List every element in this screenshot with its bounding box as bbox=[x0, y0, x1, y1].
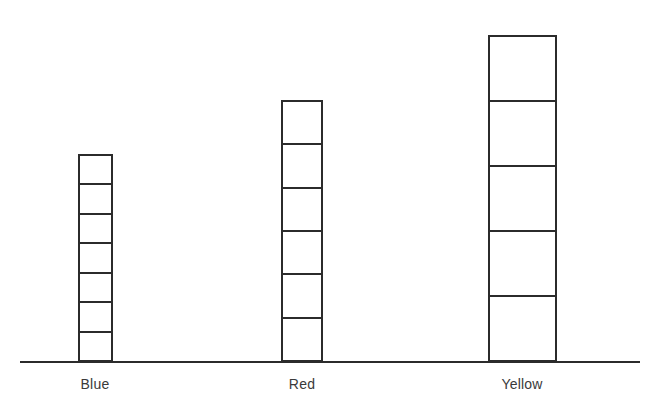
bar-segment bbox=[78, 272, 113, 301]
bar-segment bbox=[488, 230, 557, 295]
bar-blue[interactable] bbox=[78, 154, 113, 362]
chart-title bbox=[0, 0, 1, 1]
bar-yellow[interactable] bbox=[488, 35, 557, 362]
bar-segment bbox=[78, 213, 113, 242]
bar-segment bbox=[281, 187, 323, 230]
bar-segment bbox=[488, 295, 557, 362]
bar-red[interactable] bbox=[281, 100, 323, 362]
plot-area: Blue Red Yellow bbox=[0, 0, 661, 420]
bar-segment bbox=[78, 242, 113, 271]
bar-segment bbox=[281, 273, 323, 316]
x-axis-label-yellow: Yellow bbox=[482, 376, 562, 392]
bar-segment bbox=[78, 301, 113, 330]
bar-segment bbox=[281, 317, 323, 362]
bar-segment bbox=[488, 165, 557, 230]
block-bar-chart: Blue Red Yellow bbox=[0, 0, 661, 420]
bar-segment bbox=[488, 35, 557, 100]
bar-segment bbox=[281, 143, 323, 186]
bar-segment bbox=[78, 183, 113, 212]
bar-segment bbox=[488, 100, 557, 165]
bar-segment bbox=[78, 331, 113, 362]
bar-segment bbox=[78, 154, 113, 183]
x-axis-label-blue: Blue bbox=[55, 376, 135, 392]
bar-segment bbox=[281, 100, 323, 143]
x-axis-label-red: Red bbox=[262, 376, 342, 392]
bar-segment bbox=[281, 230, 323, 273]
